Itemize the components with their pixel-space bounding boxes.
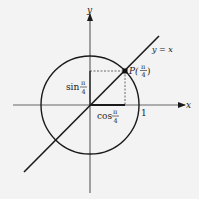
cos-label: cos π 4 [97,108,119,125]
point-p-numerator: π [141,63,146,71]
radius-one-label: 1 [141,108,147,118]
x-axis-label: x [186,100,191,110]
point-p-denominator: 4 [142,71,146,79]
line-label: y = x [151,45,173,54]
y-axis-label: y [86,5,93,15]
sin-denominator: 4 [82,88,86,96]
unit-circle-diagram: y x 1 y = x P( π 4 ) sin π 4 cos π 4 [0,0,199,199]
cos-numerator: π [113,108,118,116]
sin-fn: sin [66,82,79,92]
point-p-suffix: ) [147,66,151,76]
cos-denominator: 4 [114,117,118,125]
point-p-marker [123,69,128,74]
point-p-prefix: P( [128,66,139,76]
cos-fn: cos [97,111,112,121]
sin-numerator: π [81,79,86,87]
sin-label: sin π 4 [66,79,87,96]
point-p-label: P( π 4 ) [128,63,151,79]
